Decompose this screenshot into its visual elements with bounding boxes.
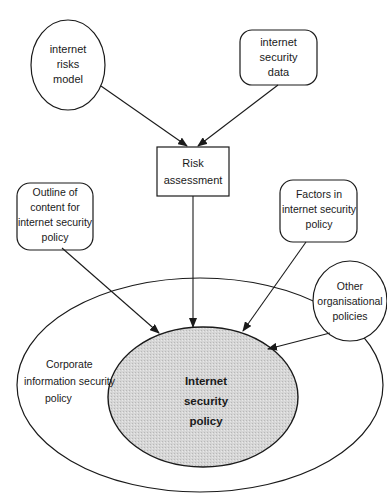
label-line: internet bbox=[240, 35, 317, 50]
label-line: Corporate bbox=[24, 356, 116, 373]
other-policies-label: Other organisational policies bbox=[310, 279, 387, 324]
arrow-risks-to-assessment bbox=[101, 86, 187, 146]
label-line: internet security bbox=[279, 202, 359, 217]
label-line: policy bbox=[166, 411, 246, 431]
label-line: Factors in bbox=[279, 187, 359, 202]
label-line: Outline of bbox=[15, 185, 95, 200]
label-line: content for bbox=[15, 200, 95, 215]
label-line: policies bbox=[310, 309, 387, 324]
arrow-outline-to-policy bbox=[62, 248, 159, 333]
risk-assessment-label: Risk assessment bbox=[157, 155, 229, 189]
label-line: information security bbox=[24, 373, 116, 390]
corporate-policy-label: Corporate information security policy bbox=[24, 356, 116, 407]
label-line: assessment bbox=[157, 172, 229, 189]
label-line: internet bbox=[38, 42, 98, 57]
label-line: security bbox=[166, 391, 246, 411]
label-line: Other bbox=[310, 279, 387, 294]
label-line: model bbox=[38, 72, 98, 87]
label-line: policy bbox=[279, 217, 359, 232]
arrow-factors-to-policy bbox=[243, 242, 306, 331]
outline-content-label: Outline of content for internet security… bbox=[15, 185, 95, 245]
label-line: internet security bbox=[15, 215, 95, 230]
label-line: risks bbox=[38, 57, 98, 72]
label-line: Internet bbox=[166, 371, 246, 391]
factors-label: Factors in internet security policy bbox=[279, 187, 359, 232]
risks-model-label: internet risks model bbox=[38, 42, 98, 87]
label-line: data bbox=[240, 65, 317, 80]
security-data-label: internet security data bbox=[240, 35, 317, 80]
label-line: policy bbox=[24, 390, 116, 407]
label-line: organisational bbox=[310, 294, 387, 309]
arrow-data-to-assessment bbox=[198, 85, 278, 146]
label-line: policy bbox=[15, 230, 95, 245]
internet-policy-label: Internet security policy bbox=[166, 371, 246, 431]
arrow-other-to-policy bbox=[268, 333, 330, 349]
label-line: security bbox=[240, 50, 317, 65]
label-line: Risk bbox=[157, 155, 229, 172]
